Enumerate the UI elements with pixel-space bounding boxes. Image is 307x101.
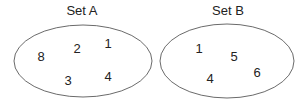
set-b-element: 4 bbox=[206, 71, 213, 86]
set-a-element: 4 bbox=[104, 69, 111, 84]
set-b-ellipse bbox=[160, 24, 294, 98]
set-a-element: 8 bbox=[37, 49, 44, 64]
set-a-ellipse bbox=[14, 25, 152, 97]
set-a-element: 3 bbox=[64, 73, 71, 88]
set-b-element: 5 bbox=[230, 49, 237, 64]
set-a-title: Set A bbox=[66, 3, 97, 18]
set-b-title: Set B bbox=[212, 3, 244, 18]
set-a-element: 1 bbox=[104, 36, 111, 51]
set-a-element: 2 bbox=[73, 41, 80, 56]
set-b-element: 6 bbox=[253, 65, 260, 80]
set-a: Set A 8 2 1 3 4 bbox=[14, 3, 152, 97]
set-diagram: Set A 8 2 1 3 4 Set B 1 5 6 4 bbox=[0, 0, 307, 101]
set-b-element: 1 bbox=[195, 41, 202, 56]
set-b: Set B 1 5 6 4 bbox=[160, 3, 294, 98]
